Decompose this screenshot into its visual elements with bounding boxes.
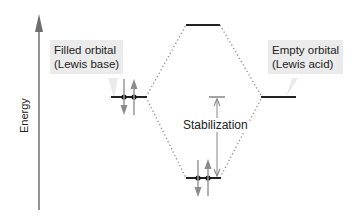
- lewis-base-callout: Filled orbital (Lewis base): [50, 40, 123, 74]
- lewis-acid-callout-line2: (Lewis acid): [272, 57, 339, 71]
- lewis-acid-callout-line1: Empty orbital: [272, 43, 339, 57]
- lewis-base-callout-line2: (Lewis base): [54, 57, 119, 71]
- left-callout-pointer: [108, 78, 118, 98]
- energy-axis-label: Energy: [18, 98, 30, 133]
- lewis-base-callout-line1: Filled orbital: [54, 43, 119, 57]
- right-callout-pointer: [286, 78, 298, 97]
- stabilization-arrow: [209, 97, 225, 176]
- mo-diagram: [0, 0, 361, 215]
- bonding-level: [186, 159, 221, 197]
- lewis-acid-callout: Empty orbital (Lewis acid): [268, 40, 343, 74]
- energy-axis: [35, 14, 43, 210]
- stabilization-label: Stabilization: [182, 118, 249, 132]
- correlation-lines: [146, 25, 262, 178]
